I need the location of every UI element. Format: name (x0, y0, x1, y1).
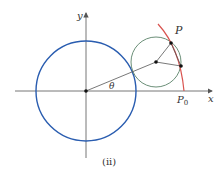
P0-label: P0 (176, 94, 188, 107)
center-line (86, 62, 156, 91)
y-axis-label: y (76, 10, 83, 21)
epicycloid-diagram: y x θ P P0 (ii) (0, 0, 223, 182)
radius-to-contact (156, 62, 181, 66)
figure-caption: (ii) (102, 156, 116, 167)
radius-to-P (156, 43, 171, 62)
P-label: P (174, 24, 183, 37)
origin-point (84, 89, 88, 93)
theta-label: θ (109, 81, 115, 91)
x-axis-label: x (208, 93, 214, 104)
P0-subscript: 0 (184, 99, 188, 107)
small-center-point (154, 60, 158, 64)
point-P (169, 41, 173, 45)
contact-point (179, 64, 183, 68)
